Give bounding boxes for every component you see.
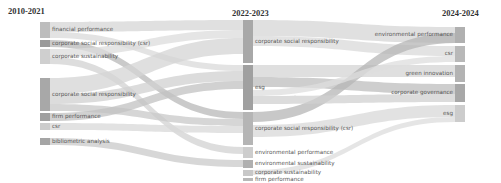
sankey-node[interactable] [243,160,253,168]
column-title-2024-2024: 2024-2024 [442,8,479,18]
sankey-node[interactable] [455,46,465,62]
sankey-node[interactable] [243,20,253,63]
sankey-node[interactable] [243,65,253,110]
sankey-node[interactable] [455,27,465,43]
node-label: green innovation [406,71,453,77]
node-label: bibliometric analysis [52,139,110,145]
node-label: corporate social responsibility (csr) [255,126,353,132]
sankey-node[interactable] [40,40,50,47]
sankey-node[interactable] [243,170,253,176]
node-label: corporate social responsibility [255,39,339,45]
sankey-diagram: 2010-2021 2022-2023 2024-2024 financial … [0,0,501,183]
node-label: corporate social responsibility [52,92,136,98]
sankey-node[interactable] [243,112,253,145]
node-label: esg [255,85,265,91]
node-label: corporate sustainability [52,54,118,60]
node-label: environmental sustainability [255,161,335,167]
node-label: corporate sustainability [255,170,321,176]
sankey-node[interactable] [243,147,253,158]
node-label: csr [445,51,453,57]
sankey-node[interactable] [455,105,465,122]
node-label: firm performance [52,114,101,120]
sankey-node[interactable] [243,178,253,181]
column-title-2010-2021: 2010-2021 [8,6,45,16]
sankey-node[interactable] [40,22,50,38]
node-label: corporate governance [391,90,453,96]
node-label: corporate social responsibility (csr) [52,41,150,47]
sankey-node[interactable] [40,113,50,121]
node-label: firm performance [255,177,304,183]
node-label: environmental performance [375,32,453,38]
sankey-node[interactable] [455,84,465,102]
column-title-2022-2023: 2022-2023 [232,8,269,18]
node-label: environmental performance [255,150,333,156]
sankey-node[interactable] [40,49,50,64]
sankey-node[interactable] [40,123,50,130]
sankey-node[interactable] [40,78,50,111]
node-label: csr [52,124,60,130]
node-label: financial performance [52,27,113,33]
node-label: esg [443,111,453,117]
sankey-node[interactable] [455,65,465,82]
sankey-node[interactable] [40,138,50,145]
